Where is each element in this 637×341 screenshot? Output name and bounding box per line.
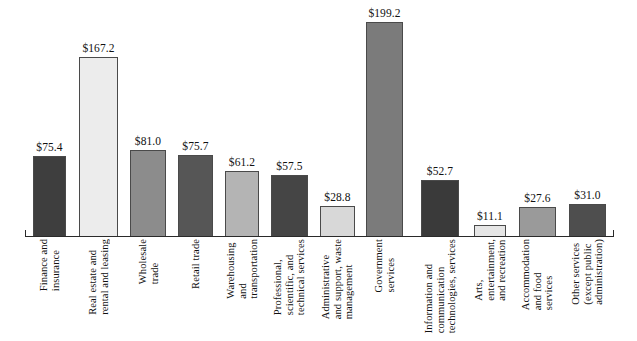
category-label: Administrative and support, waste manage… [320, 239, 355, 341]
category-label-text: Warehousing and transportation [225, 239, 260, 299]
category-label-text: Accommodation and food services [520, 239, 555, 310]
bar-value-label: $81.0 [135, 135, 161, 147]
bar-value-label: $28.8 [324, 191, 350, 203]
bar-group: $52.7 [421, 1, 459, 237]
category-label: Government services [366, 239, 403, 341]
category-axis-labels: Finance and insuranceReal estate and ren… [0, 239, 637, 341]
bar [366, 22, 403, 237]
category-label-text: Wholesale trade [137, 239, 160, 284]
category-label-text: Administrative and support, waste manage… [320, 239, 355, 319]
category-label: Real estate and rental and leasing [79, 239, 118, 341]
bar [79, 57, 118, 237]
bar-value-label: $167.2 [82, 42, 114, 54]
bar-value-label: $199.2 [368, 7, 400, 19]
bar [320, 206, 355, 237]
bar-value-label: $61.2 [229, 156, 255, 168]
bar-value-label: $57.5 [276, 160, 302, 172]
bar-value-label: $11.1 [477, 210, 503, 222]
bar-value-label: $75.4 [36, 141, 62, 153]
category-label-text: Retail trade [190, 239, 202, 289]
bar-group: $27.6 [519, 1, 556, 237]
plot-area: $75.4$167.2$81.0$75.7$61.2$57.5$28.8$199… [0, 0, 637, 237]
category-label: Retail trade [178, 239, 213, 341]
category-label: Professional, scientific, and technical … [271, 239, 308, 341]
bar-group: $31.0 [569, 1, 606, 237]
bar [519, 207, 556, 237]
axis-tick-left [25, 230, 26, 237]
category-label-text: Information and communication technologi… [423, 239, 458, 333]
bar-value-label: $52.7 [427, 165, 453, 177]
bar-value-label: $31.0 [574, 189, 600, 201]
bar-group: $75.7 [178, 1, 213, 237]
category-label: Information and communication technologi… [421, 239, 459, 341]
bar-group: $61.2 [225, 1, 259, 237]
bar [569, 204, 606, 237]
category-label: Finance and insurance [33, 239, 66, 341]
bar-group: $11.1 [474, 1, 506, 237]
bar-group: $81.0 [130, 1, 166, 237]
bar-group: $75.4 [33, 1, 66, 237]
x-axis-line [25, 236, 614, 237]
category-label: Arts, entertainment, and recreation [474, 239, 506, 341]
category-label: Other services (except public administra… [569, 239, 606, 341]
bar [421, 180, 459, 237]
bar-group: $57.5 [271, 1, 308, 237]
category-label-text: Finance and insurance [38, 239, 61, 291]
category-label-text: Arts, entertainment, and recreation [473, 239, 508, 301]
axis-tick-right [613, 230, 614, 237]
category-label-text: Professional, scientific, and technical … [272, 239, 307, 315]
category-label: Wholesale trade [130, 239, 166, 341]
bar-value-label: $75.7 [182, 140, 208, 152]
bar [178, 155, 213, 237]
bar [33, 156, 66, 237]
bar-value-label: $27.6 [524, 192, 550, 204]
category-label-text: Other services (except public administra… [570, 239, 605, 305]
category-label-text: Real estate and rental and leasing [87, 239, 110, 315]
category-label: Accommodation and food services [519, 239, 556, 341]
bar [271, 175, 308, 237]
bar-group: $167.2 [79, 1, 118, 237]
bar [225, 171, 259, 237]
category-label-text: Government services [373, 239, 396, 293]
category-label: Warehousing and transportation [225, 239, 259, 341]
bar-chart: $75.4$167.2$81.0$75.7$61.2$57.5$28.8$199… [0, 0, 637, 341]
bar-group: $28.8 [320, 1, 355, 237]
bar [130, 150, 166, 237]
bar-group: $199.2 [366, 1, 403, 237]
